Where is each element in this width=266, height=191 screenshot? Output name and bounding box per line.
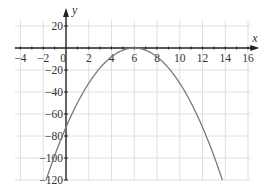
y-tick-label: −60 — [45, 108, 63, 120]
y-axis-label: y — [71, 3, 78, 17]
y-axis-arrow-icon — [63, 8, 69, 17]
y-tick-label: −40 — [45, 86, 63, 98]
x-tick-label: −2 — [37, 52, 49, 64]
x-tick-label: 0 — [60, 52, 66, 64]
x-tick-label: 6 — [131, 52, 137, 64]
y-tick-label: −120 — [39, 174, 63, 186]
x-tick-labels: −4−20246810121416 — [14, 52, 254, 64]
x-tick-label: 12 — [197, 52, 209, 64]
x-axis-label: x — [251, 31, 258, 45]
x-tick-label: 10 — [174, 52, 186, 64]
parabola-chart: −4−20246810121416 20−20−40−60−80−100−120… — [0, 0, 266, 191]
x-tick-label: 2 — [86, 52, 92, 64]
y-tick-label: 20 — [52, 20, 64, 32]
x-axis-arrow-icon — [250, 45, 259, 51]
y-tick-label: −20 — [45, 64, 63, 76]
x-tick-label: −4 — [14, 52, 26, 64]
x-tick-label: 14 — [220, 52, 232, 64]
y-tick-label: −100 — [39, 152, 63, 164]
x-tick-label: 16 — [242, 52, 254, 64]
